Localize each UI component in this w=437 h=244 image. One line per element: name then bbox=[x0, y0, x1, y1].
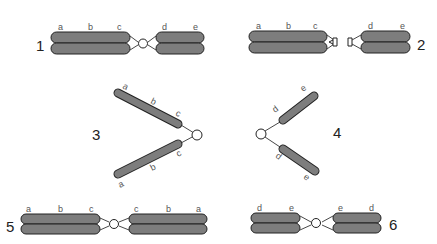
figure-number-2: 2 bbox=[417, 36, 425, 53]
chromatid bbox=[156, 43, 204, 54]
gene-label: d bbox=[368, 21, 373, 31]
chromatid bbox=[361, 31, 410, 42]
gene-label: b bbox=[58, 204, 63, 214]
centromere bbox=[139, 39, 148, 48]
figure-1: 1 a b c d e bbox=[36, 22, 204, 54]
gene-label: a bbox=[58, 22, 63, 32]
chromatid bbox=[51, 43, 130, 54]
centromere bbox=[312, 219, 321, 228]
chromatid bbox=[21, 224, 100, 234]
gene-label: e bbox=[400, 21, 405, 31]
gene-label: c bbox=[174, 148, 183, 159]
gene-label: d bbox=[270, 104, 280, 115]
gene-label: a bbox=[256, 21, 261, 31]
gene-label: d bbox=[257, 203, 262, 213]
gene-label: b bbox=[149, 96, 158, 107]
gene-label: c bbox=[174, 108, 183, 119]
chromatid bbox=[361, 42, 410, 53]
chromatid bbox=[333, 213, 381, 223]
gene-label: e bbox=[298, 83, 308, 94]
figure-6: d e e d 6 bbox=[251, 203, 397, 233]
centromere bbox=[256, 129, 266, 139]
figure-number-1: 1 bbox=[36, 37, 44, 54]
spindle-fiber bbox=[265, 122, 280, 147]
chromatid bbox=[249, 42, 327, 53]
chromatid bbox=[251, 223, 300, 233]
gene-label: c bbox=[313, 21, 318, 31]
gene-label: c bbox=[89, 204, 94, 214]
chromatid bbox=[129, 214, 207, 224]
gene-label: d bbox=[369, 203, 374, 213]
gene-label: e bbox=[289, 203, 294, 213]
gene-label: d bbox=[162, 22, 167, 32]
chromatid bbox=[118, 144, 178, 174]
chromatid bbox=[249, 31, 327, 42]
gene-label: e bbox=[338, 203, 343, 213]
chromatid bbox=[156, 32, 204, 43]
chromatid bbox=[283, 96, 314, 120]
gene-label: a bbox=[26, 204, 31, 214]
figure-number-5: 5 bbox=[6, 218, 14, 235]
chromatid bbox=[51, 32, 130, 43]
figure-2: a b c d e 2 bbox=[249, 21, 425, 53]
gene-label: b bbox=[286, 21, 291, 31]
gene-label: b bbox=[88, 22, 93, 32]
gene-label: a bbox=[196, 204, 201, 214]
chromatid bbox=[21, 214, 100, 224]
gene-label: a bbox=[116, 179, 125, 190]
centromere-half-right bbox=[348, 38, 352, 46]
figure-number-4: 4 bbox=[333, 124, 341, 141]
gene-label: c bbox=[117, 22, 122, 32]
figure-number-3: 3 bbox=[92, 126, 100, 143]
chromatid bbox=[129, 224, 207, 234]
gene-label: a bbox=[121, 81, 130, 92]
centromere bbox=[192, 130, 202, 140]
chromosome-diagram: 1 a b c d e a b c d e 2 3 a bbox=[0, 0, 437, 244]
gene-label: b bbox=[166, 204, 171, 214]
gene-label: c bbox=[134, 204, 139, 214]
figure-4: d e d e 4 bbox=[256, 83, 341, 183]
centromere-half-left bbox=[329, 38, 337, 46]
gene-label: e bbox=[193, 22, 198, 32]
gene-label: b bbox=[148, 162, 157, 173]
figure-3: 3 a b c c b a bbox=[92, 81, 202, 190]
figure-5: 5 a b c c b a bbox=[6, 204, 207, 235]
figure-number-6: 6 bbox=[389, 216, 397, 233]
spindle-fiber bbox=[352, 35, 361, 49]
chromatid bbox=[283, 149, 315, 171]
centromere bbox=[110, 220, 119, 229]
gene-label: d bbox=[274, 151, 284, 162]
chromatid bbox=[118, 93, 178, 124]
chromatid bbox=[251, 213, 300, 223]
gene-label: e bbox=[302, 172, 312, 183]
chromatid bbox=[333, 223, 381, 233]
